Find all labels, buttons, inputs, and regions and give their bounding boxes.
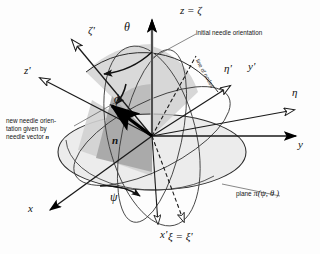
axis-label-y: y [298,138,303,150]
angle-label-theta: θ [124,20,130,35]
axis-label-y-prime: y' [248,60,255,72]
annotation-plane-prefix: plane [236,190,253,197]
annotation-plane-args: (ψ, θ ) [258,188,280,198]
axis-label-eta: η [292,86,297,98]
vector-label-needle: n [112,134,118,146]
axis-label-eta-prime: η' [224,62,232,74]
annotation-new-orientation: new needle orien-tation given byneedle v… [6,117,78,142]
annotation-needle-vector-symbol: n [46,133,50,140]
axis-label-zeta-prime: ζ' [88,24,95,36]
angle-label-phi: ϕ [114,92,120,107]
annotation-initial-orientation: initial needle orientation [196,29,262,37]
annotation-plane: plane π(ψ, θ ) [236,188,279,198]
euler-angle-diagram: new needle orien-tation given byneedle v… [0,0,320,254]
annotation-new-orientation-l2: tation given by [6,125,47,132]
annotation-new-orientation-l1: new needle orien- [6,117,56,124]
leader-initial-orientation [152,34,196,58]
axis-label-xi: ξ = ξ' [168,230,193,242]
axis-label-x-prime: x' [160,228,167,240]
angle-label-psi: ψ [110,190,117,205]
axis-label-z: z = ζ [180,4,202,16]
annotation-new-orientation-l3: needle vector [6,133,46,140]
axis-label-z-prime: z' [24,64,31,76]
axis-label-x: x [28,202,33,214]
